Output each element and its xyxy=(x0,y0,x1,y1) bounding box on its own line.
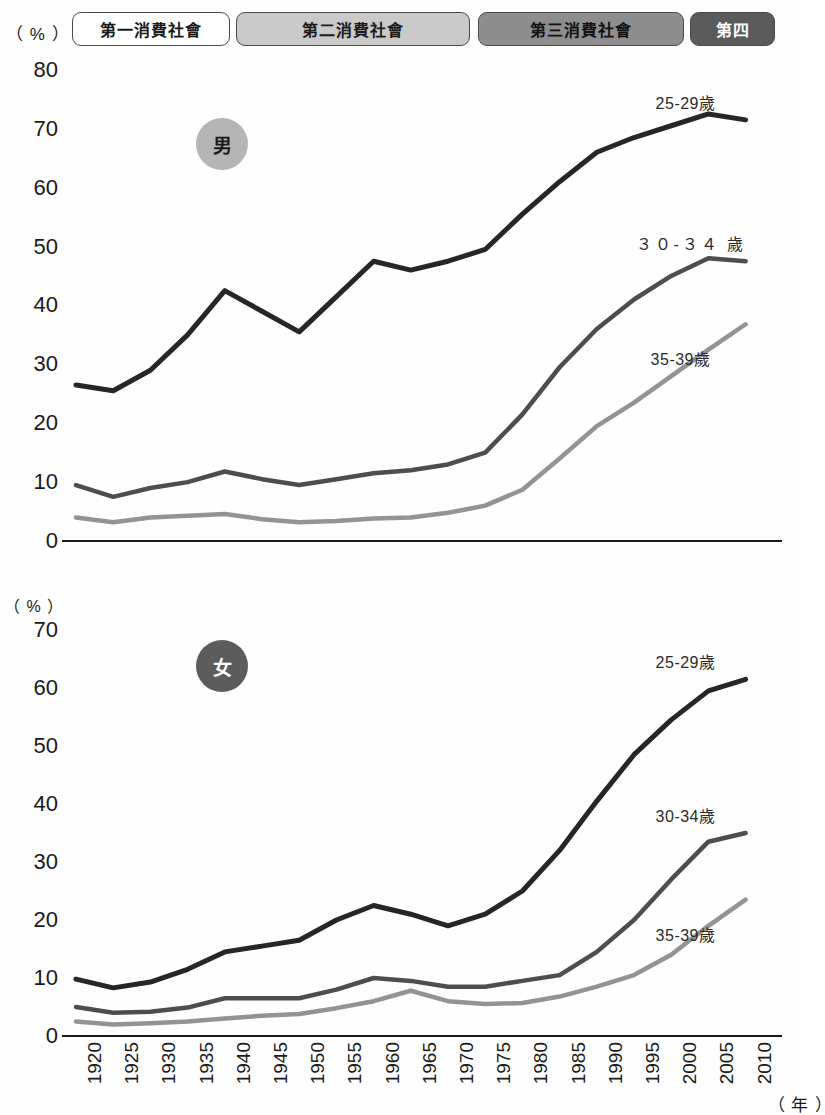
era-band-4-label: 第四 xyxy=(716,17,750,41)
female-y-tick: 50 xyxy=(6,733,58,759)
male-series-line-- xyxy=(76,258,746,497)
female-series-label-30-34: 30-34歲 xyxy=(656,803,716,827)
male-y-axis-ticks: 80706050403020100 xyxy=(0,50,58,555)
male-y-tick: 70 xyxy=(6,116,58,142)
male-y-tick: 10 xyxy=(6,469,58,495)
x-axis-tick: 1960 xyxy=(382,1042,404,1084)
female-y-tick: 40 xyxy=(6,791,58,817)
female-series-line-30-34 xyxy=(76,833,746,1013)
female-series-label-25-29: 25-29歲 xyxy=(656,649,716,673)
era-band-2: 第二消費社會 xyxy=(236,12,470,46)
x-axis-tick: 1940 xyxy=(233,1042,255,1084)
x-axis-tick: 1985 xyxy=(568,1042,590,1084)
male-series-label-35-39: 35-39歲 xyxy=(651,346,711,370)
female-chart-panel: （ % ） 706050403020100 女 25-29歲 30-34歲 35… xyxy=(0,575,802,1055)
x-axis-tick: 2000 xyxy=(679,1042,701,1084)
female-series-line-25-29 xyxy=(76,679,746,988)
female-gender-badge-label: 女 xyxy=(213,653,232,680)
x-axis-tick: 1935 xyxy=(196,1042,218,1084)
female-series-label-35-39: 35-39歲 xyxy=(656,922,716,946)
x-axis-tick: 1995 xyxy=(642,1042,664,1084)
era-band-1-label: 第一消費社會 xyxy=(100,17,202,41)
x-axis-tick: 1990 xyxy=(605,1042,627,1084)
x-axis-unit-label: （ 年 ） xyxy=(768,1091,825,1115)
male-series-label-25-29: 25-29歲 xyxy=(656,90,716,114)
x-axis: （ 年 ） 1920192519301935194019451950195519… xyxy=(0,1036,802,1115)
male-chart-panel: 80706050403020100 男 25-29歲 ３０-３４ 歲 35-39… xyxy=(0,50,802,555)
x-axis-tick: 1925 xyxy=(121,1042,143,1084)
era-band-1: 第一消費社會 xyxy=(72,12,230,46)
era-band-2-label: 第二消費社會 xyxy=(302,17,404,41)
female-y-axis-ticks: 706050403020100 xyxy=(0,575,58,1055)
male-y-tick: 60 xyxy=(6,175,58,201)
x-axis-tick: 1965 xyxy=(419,1042,441,1084)
x-axis-tick: 1930 xyxy=(158,1042,180,1084)
male-y-tick: 0 xyxy=(6,528,58,554)
era-band-3: 第三消費社會 xyxy=(478,12,684,46)
female-gender-badge: 女 xyxy=(196,640,248,692)
male-gender-badge-label: 男 xyxy=(213,131,232,158)
x-axis-tick: 1975 xyxy=(493,1042,515,1084)
male-series-line-35-39 xyxy=(76,324,746,522)
era-band-3-label: 第三消費社會 xyxy=(530,17,632,41)
era-band-strip: （ % ） 第一消費社會 第二消費社會 第三消費社會 第四 xyxy=(0,10,802,50)
male-plot-area xyxy=(62,50,802,555)
female-y-tick: 70 xyxy=(6,617,58,643)
x-axis-tick: 1980 xyxy=(530,1042,552,1084)
male-y-tick: 40 xyxy=(6,292,58,318)
x-axis-tick: 1950 xyxy=(307,1042,329,1084)
female-y-tick: 20 xyxy=(6,907,58,933)
male-y-tick: 50 xyxy=(6,234,58,260)
female-series-line-35-39 xyxy=(76,900,746,1025)
female-y-tick: 60 xyxy=(6,675,58,701)
male-series-label-30-34: ３０-３４ 歲 xyxy=(636,231,747,255)
male-gender-badge: 男 xyxy=(196,118,248,170)
male-y-tick: 20 xyxy=(6,410,58,436)
x-axis-tick: 1920 xyxy=(84,1042,106,1084)
x-axis-tick: 2010 xyxy=(754,1042,776,1084)
male-y-tick: 30 xyxy=(6,351,58,377)
female-y-tick: 30 xyxy=(6,849,58,875)
x-axis-tick: 1970 xyxy=(456,1042,478,1084)
era-band-4: 第四 xyxy=(690,12,775,46)
x-axis-tick: 2005 xyxy=(716,1042,738,1084)
era-strip-percent-unit: （ % ） xyxy=(6,20,70,45)
x-axis-tick: 1945 xyxy=(270,1042,292,1084)
x-axis-tick: 1955 xyxy=(344,1042,366,1084)
female-y-tick: 10 xyxy=(6,965,58,991)
male-y-tick: 80 xyxy=(6,57,58,83)
male-lines-svg xyxy=(62,50,802,555)
